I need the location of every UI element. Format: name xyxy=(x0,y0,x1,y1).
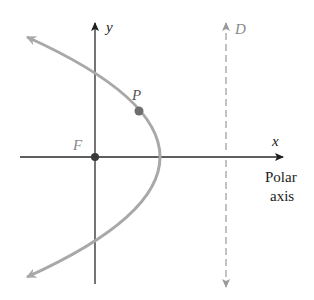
polar-axis-label-line2: axis xyxy=(270,188,294,204)
directrix-label: D xyxy=(234,21,246,37)
point-p-label: P xyxy=(131,87,141,103)
parabola-diagram: y x D F P Polar axis xyxy=(0,0,314,300)
point-p xyxy=(135,107,144,116)
y-axis-label: y xyxy=(104,19,113,35)
parabola-curve-lower xyxy=(27,157,160,277)
focus-label: F xyxy=(72,137,83,153)
focus-point xyxy=(91,153,99,161)
x-axis-label: x xyxy=(271,133,279,149)
polar-axis-label-line1: Polar xyxy=(265,169,297,185)
